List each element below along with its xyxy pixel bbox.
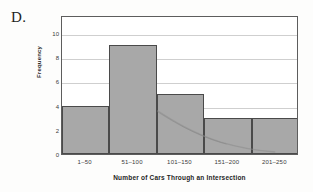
y-axis-title: Frequency [36, 46, 42, 78]
x-axis-title: Number of Cars Through an Intersection [61, 174, 298, 181]
y-tick-label: 6 [45, 79, 59, 85]
histogram-bar [109, 45, 156, 154]
histogram-bar [252, 118, 298, 154]
gridline [62, 59, 297, 60]
x-axis-tick-labels: 1–5051–100101–150151–200201–250 [61, 159, 298, 171]
x-tick-label: 51–100 [121, 159, 142, 165]
x-tick-label: 101–150 [167, 159, 192, 165]
plot-area [61, 16, 298, 155]
gridline [62, 35, 297, 36]
y-tick-label: 2 [45, 128, 59, 134]
x-tick-label: 1–50 [78, 159, 92, 165]
histogram-bar [62, 106, 109, 154]
x-tick-label: 201–250 [262, 159, 287, 165]
histogram-bar [157, 94, 204, 154]
gridline [62, 83, 297, 84]
y-tick-label: 10 [45, 31, 59, 37]
y-tick-label: 4 [45, 104, 59, 110]
y-tick-label: 8 [45, 55, 59, 61]
histogram-bar [204, 118, 251, 154]
x-tick-label: 151–200 [215, 159, 240, 165]
y-tick-label: 0 [45, 152, 59, 158]
histogram-figure: Frequency 0246810 1–5051–100101–150151–2… [0, 0, 313, 192]
y-axis-tick-labels: 0246810 [43, 16, 59, 155]
